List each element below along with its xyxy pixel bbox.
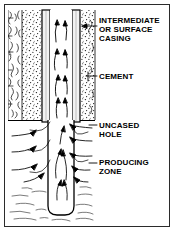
label-intermediate-or-surface-casing: INTERMEDIATE OR SURFACE CASING (99, 16, 160, 44)
label-uncased-hole: UNCASED HOLE (99, 121, 139, 139)
label-producing-zone: PRODUCING ZONE (99, 158, 149, 176)
casing-wall-left (42, 10, 50, 122)
uncased-open-hole (48, 120, 74, 215)
fluid-column (50, 10, 72, 120)
casing-wall-right (72, 10, 80, 122)
well-completion-figure: INTERMEDIATE OR SURFACE CASING CEMENT UN… (0, 0, 176, 233)
formation-rock-left (8, 10, 20, 120)
cement-sheath-left (22, 10, 42, 120)
label-cement: CEMENT (99, 72, 133, 81)
